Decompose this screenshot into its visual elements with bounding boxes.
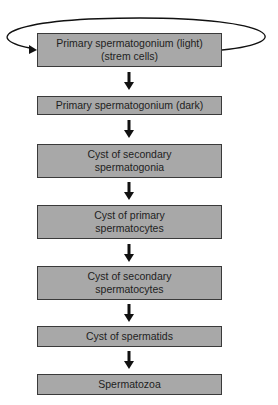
node-label: Primary spermatogonium (light) (strem ce… <box>56 37 202 63</box>
down-arrow-icon <box>124 351 134 369</box>
node-label: Cyst of secondary spermatocytes <box>87 270 171 296</box>
node-label: Cyst of primary spermatocytes <box>94 209 165 235</box>
down-arrow-icon <box>124 244 134 262</box>
node-label: Spermatozoa <box>98 378 160 391</box>
node-label: Cyst of secondary spermatogonia <box>87 148 171 174</box>
down-arrow-icon <box>124 120 134 138</box>
node-label: Cyst of spermatids <box>86 330 173 343</box>
down-arrow-icon <box>124 72 134 90</box>
node-label: Primary spermatogonium (dark) <box>56 99 204 112</box>
node-primary-spermatogonium-dark: Primary spermatogonium (dark) <box>37 96 222 115</box>
flowchart: Primary spermatogonium (light) (strem ce… <box>0 0 278 405</box>
down-arrow-icon <box>124 182 134 200</box>
node-cyst-secondary-spermatocytes: Cyst of secondary spermatocytes <box>37 266 222 300</box>
down-arrow-icon <box>124 304 134 322</box>
node-cyst-secondary-spermatogonia: Cyst of secondary spermatogonia <box>37 144 222 178</box>
node-cyst-primary-spermatocytes: Cyst of primary spermatocytes <box>37 205 222 239</box>
node-primary-spermatogonium-light: Primary spermatogonium (light) (strem ce… <box>37 33 222 67</box>
node-spermatozoa: Spermatozoa <box>37 374 222 395</box>
node-cyst-spermatids: Cyst of spermatids <box>37 326 222 347</box>
